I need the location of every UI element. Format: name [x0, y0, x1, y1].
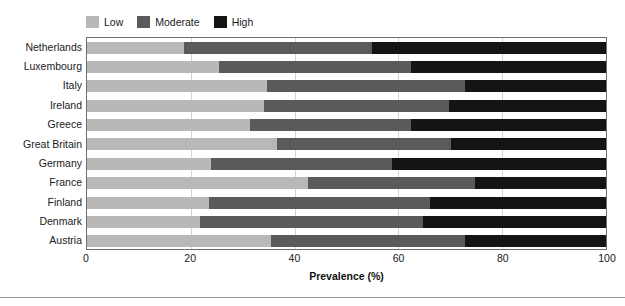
bar-segment-high	[465, 235, 606, 247]
bar-segment-low	[87, 100, 264, 112]
legend-swatch-high-icon	[214, 16, 227, 28]
bar-segment-moderate	[271, 235, 466, 247]
y-axis-label-austria: Austria	[0, 234, 82, 246]
bar-segment-low	[87, 197, 209, 209]
bar-segment-moderate	[184, 42, 372, 54]
bar-segment-high	[423, 216, 606, 228]
bar-segment-moderate	[219, 61, 411, 73]
legend-swatch-moderate-icon	[137, 16, 150, 28]
legend-swatch-low-icon	[86, 16, 99, 28]
plot-area	[86, 37, 607, 250]
x-axis-tick-40: 40	[289, 252, 301, 264]
legend-entry-low: Low	[86, 16, 123, 28]
legend-label-moderate: Moderate	[155, 16, 199, 28]
x-axis-tick-100: 100	[598, 252, 616, 264]
y-axis-label-luxembourg: Luxembourg	[0, 60, 82, 72]
footer-divider	[0, 297, 625, 298]
bar-segment-moderate	[211, 158, 392, 170]
bar-segment-high	[475, 177, 606, 189]
bar-segment-high	[392, 158, 606, 170]
bar-segment-moderate	[264, 100, 449, 112]
bar-row	[87, 216, 606, 228]
y-axis-label-great-britain: Great Britain	[0, 138, 82, 150]
bar-row	[87, 197, 606, 209]
bar-segment-moderate	[308, 177, 475, 189]
bar-segment-high	[411, 61, 606, 73]
bar-row	[87, 158, 606, 170]
bar-segment-high	[449, 100, 606, 112]
bar-segment-low	[87, 235, 271, 247]
legend-entry-high: High	[214, 16, 254, 28]
bar-row	[87, 119, 606, 131]
x-axis-tick-80: 80	[497, 252, 509, 264]
bar-segment-high	[430, 197, 606, 209]
bar-segment-moderate	[250, 119, 410, 131]
bar-segment-moderate	[209, 197, 430, 209]
x-axis-title: Prevalence (%)	[86, 270, 607, 282]
x-axis-tick-0: 0	[83, 252, 89, 264]
bar-row	[87, 177, 606, 189]
bar-segment-low	[87, 158, 211, 170]
bar-segment-low	[87, 42, 184, 54]
bar-row	[87, 61, 606, 73]
x-axis-tick-60: 60	[393, 252, 405, 264]
y-axis-label-italy: Italy	[0, 79, 82, 91]
bar-segment-low	[87, 80, 267, 92]
bar-segment-low	[87, 216, 200, 228]
legend-label-low: Low	[104, 16, 123, 28]
x-axis-ticks: 020406080100	[86, 252, 607, 266]
bar-segment-moderate	[277, 138, 450, 150]
legend-label-high: High	[232, 16, 254, 28]
bar-segment-high	[465, 80, 606, 92]
chart-figure: Low Moderate High NetherlandsLuxembourgI…	[0, 0, 625, 306]
bar-segment-high	[372, 42, 606, 54]
bar-segment-low	[87, 61, 219, 73]
y-axis-label-france: France	[0, 176, 82, 188]
y-axis-label-ireland: Ireland	[0, 99, 82, 111]
bar-segment-moderate	[267, 80, 465, 92]
chart-legend: Low Moderate High	[86, 14, 253, 30]
bar-segment-high	[411, 119, 606, 131]
bar-segment-low	[87, 119, 250, 131]
bar-row	[87, 42, 606, 54]
y-axis-label-netherlands: Netherlands	[0, 41, 82, 53]
bar-row	[87, 138, 606, 150]
bar-row	[87, 80, 606, 92]
bar-segment-high	[451, 138, 606, 150]
bar-segment-moderate	[200, 216, 423, 228]
y-axis-label-denmark: Denmark	[0, 215, 82, 227]
bar-row	[87, 235, 606, 247]
x-axis-tick-20: 20	[184, 252, 196, 264]
bar-row	[87, 100, 606, 112]
y-axis-label-germany: Germany	[0, 157, 82, 169]
y-axis-label-greece: Greece	[0, 118, 82, 130]
legend-entry-moderate: Moderate	[137, 16, 199, 28]
bars-layer	[87, 38, 606, 249]
y-axis-labels: NetherlandsLuxembourgItalyIrelandGreeceG…	[0, 37, 82, 250]
bar-segment-low	[87, 177, 308, 189]
bar-segment-low	[87, 138, 277, 150]
y-axis-label-finland: Finland	[0, 196, 82, 208]
